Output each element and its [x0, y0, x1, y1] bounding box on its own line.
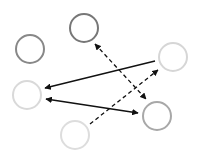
- edges-group: [45, 44, 158, 124]
- nodes-group: [13, 14, 187, 149]
- node-left-upper: [16, 35, 44, 63]
- edge-c-to-d: [45, 61, 155, 88]
- node-left-lower: [13, 81, 41, 109]
- node-top-center: [70, 14, 98, 42]
- edge-a-e: [95, 44, 146, 99]
- node-right-lower: [143, 102, 171, 130]
- edge-f-to-c: [90, 70, 158, 124]
- diagram-canvas: [0, 0, 200, 161]
- node-bottom: [61, 121, 89, 149]
- node-right-upper: [159, 43, 187, 71]
- edge-d-e: [46, 99, 138, 113]
